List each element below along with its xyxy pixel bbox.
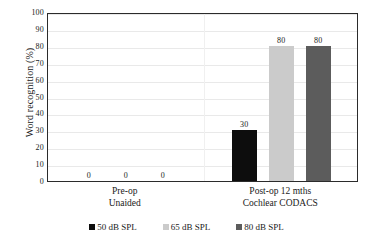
legend-item[interactable]: 50 dB SPL — [89, 222, 137, 232]
legend-swatch-icon — [236, 224, 242, 230]
bar-value-label: 0 — [143, 172, 183, 180]
chart-legend: 50 dB SPL65 dB SPL80 dB SPL — [0, 222, 373, 232]
bar-value-label: 0 — [106, 172, 146, 180]
bars-layer: 000308080 — [48, 14, 357, 181]
bar — [232, 130, 258, 181]
y-tick-label: 80 — [20, 43, 44, 51]
y-tick-label: 20 — [20, 144, 44, 152]
x-category-label-line1: Post-op 12 mths — [249, 186, 311, 196]
legend-item[interactable]: 80 dB SPL — [236, 222, 284, 232]
legend-swatch-icon — [163, 224, 169, 230]
bar-value-label: 80 — [298, 37, 338, 45]
bar-value-label: 30 — [224, 121, 264, 129]
x-category-label-line2: Cochlear CODACS — [203, 197, 359, 209]
legend-label: 65 dB SPL — [171, 222, 211, 232]
y-tick-label: 0 — [20, 178, 44, 186]
y-axis-tick-labels: 1009080706050403020100 — [20, 13, 44, 182]
bar — [306, 46, 332, 181]
bar-value-label: 80 — [261, 37, 301, 45]
word-recognition-bar-chart: Word recognition (%) 1009080706050403020… — [0, 0, 373, 245]
y-tick-label: 40 — [20, 110, 44, 118]
x-category-label-line1: Pre-op — [112, 186, 137, 196]
y-tick-label: 60 — [20, 77, 44, 85]
legend-swatch-icon — [89, 224, 95, 230]
y-tick-label: 10 — [20, 161, 44, 169]
y-tick-label: 50 — [20, 94, 44, 102]
legend-item[interactable]: 65 dB SPL — [163, 222, 211, 232]
bar-value-label: 0 — [69, 172, 109, 180]
bar — [269, 46, 295, 181]
legend-label: 50 dB SPL — [97, 222, 137, 232]
y-tick-label: 70 — [20, 60, 44, 68]
x-category-label-line2: Unaided — [47, 197, 203, 209]
y-tick-label: 100 — [20, 9, 44, 17]
x-category-label: Pre-opUnaided — [47, 185, 203, 209]
x-category-label: Post-op 12 mthsCochlear CODACS — [203, 185, 359, 209]
plot-area: 000308080 — [47, 13, 358, 182]
legend-label: 80 dB SPL — [244, 222, 284, 232]
y-tick-label: 90 — [20, 26, 44, 34]
y-tick-label: 30 — [20, 127, 44, 135]
x-axis-category-labels: Pre-opUnaidedPost-op 12 mthsCochlear COD… — [47, 185, 358, 217]
